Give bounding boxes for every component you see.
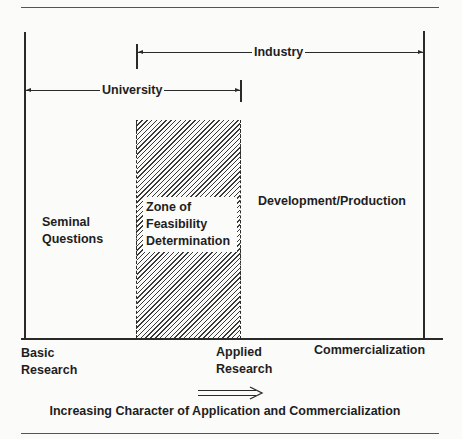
left-axis-line	[24, 32, 26, 339]
university-label: University	[100, 82, 164, 98]
university-right-tick	[240, 80, 242, 102]
top-rule	[21, 7, 439, 8]
basic-line1: Basic	[21, 345, 77, 362]
seminal-line1: Seminal	[42, 214, 103, 231]
zone-label-line2: Feasibility	[146, 216, 234, 233]
double-arrow-icon	[198, 386, 264, 400]
basic-line2: Research	[21, 362, 77, 379]
applied-line2: Research	[216, 361, 272, 378]
commercialization-label: Commercialization	[314, 342, 425, 358]
university-right-arrowhead-icon	[235, 88, 240, 92]
development-production-label: Development/Production	[258, 193, 406, 209]
applied-line1: Applied	[216, 344, 272, 361]
seminal-questions-label: Seminal Questions	[42, 214, 103, 248]
university-left-arrowhead-icon	[26, 88, 31, 92]
seminal-line2: Questions	[42, 231, 103, 248]
industry-left-arrowhead-icon	[138, 50, 143, 54]
baseline	[21, 338, 443, 340]
applied-research-label: Applied Research	[216, 344, 272, 378]
industry-left-tick	[136, 44, 138, 69]
right-axis-line	[423, 31, 425, 338]
caption: Increasing Character of Application and …	[0, 404, 456, 418]
zone-of-feasibility-label: Zone of Feasibility Determination	[143, 197, 237, 252]
zone-label-line3: Determination	[146, 233, 234, 250]
industry-right-arrowhead-icon	[418, 50, 423, 54]
basic-research-label: Basic Research	[21, 345, 77, 379]
bottom-rule	[21, 433, 439, 434]
industry-label: Industry	[252, 44, 305, 60]
zone-label-line1: Zone of	[146, 199, 234, 216]
